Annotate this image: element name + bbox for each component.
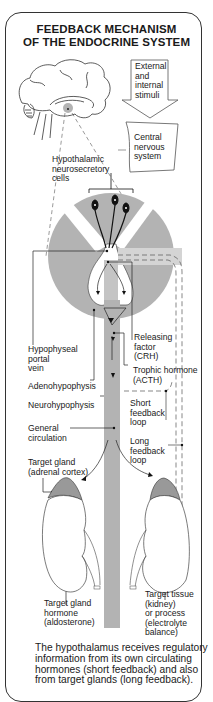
label-target-gland-hormone: Target gland hormone (aldosterone)	[44, 599, 95, 628]
hypothalamus-highlight	[63, 103, 73, 113]
label-target-gland: Target gland (adrenal cortex)	[28, 458, 88, 477]
label-short-feedback-loop: Short feedback loop	[130, 399, 165, 428]
adrenal-kidney-right	[130, 478, 189, 593]
label-releasing-factor: Releasing factor (CRH)	[134, 333, 172, 362]
label-cns: Central nervous system	[134, 133, 165, 162]
brain-illustration	[19, 60, 110, 140]
label-general-circulation: General circulation	[28, 424, 67, 443]
label-target-tissue: Target tissue (kidney) or process (elect…	[145, 590, 194, 638]
label-trophic-hormone: Trophic hormone (ACTH)	[133, 366, 198, 385]
label-neurohypophysis: Neurohypophysis	[28, 401, 94, 411]
label-neurosecretory-cells: Hypothalamic neurosecretory cells	[52, 155, 109, 184]
label-external-stimuli: External and internal stimuli	[135, 62, 167, 100]
diagram-caption: The hypothalamus receives regulatory inf…	[35, 643, 210, 686]
adrenal-kidney-left	[42, 478, 100, 592]
label-long-feedback-loop: Long feedback loop	[130, 437, 165, 466]
label-adenohypophysis: Adenohypophysis	[28, 382, 96, 392]
label-portal-vein: Hypophyseal portal vein	[28, 345, 78, 374]
